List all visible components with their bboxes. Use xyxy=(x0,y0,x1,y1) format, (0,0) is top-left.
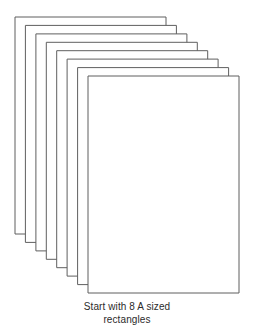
figure-caption: Start with 8 A sized rectangles xyxy=(0,300,254,326)
figure-stack-of-rectangles: Start with 8 A sized rectangles xyxy=(0,0,254,336)
sheet-1-front xyxy=(88,76,239,293)
rectangle-stack-illustration xyxy=(0,0,254,336)
sheet-group xyxy=(15,17,239,293)
